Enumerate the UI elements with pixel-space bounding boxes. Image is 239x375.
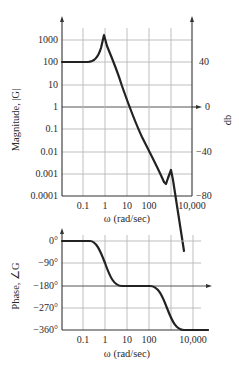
mag-tick-0.1: 0.1 xyxy=(46,123,59,134)
mag-tick-10: 10 xyxy=(48,79,58,90)
phase-tick-neg270: −270° xyxy=(33,302,58,313)
mag-xtick-1: 1 xyxy=(103,200,108,211)
phase-xtick-1: 1 xyxy=(103,334,108,345)
db-tick-40: 40 xyxy=(199,56,209,67)
magnitude-ylabel: Magnitude, |G| xyxy=(10,89,21,152)
magnitude-right-arrow-icon xyxy=(190,16,194,22)
mag-xtick-100: 100 xyxy=(142,200,157,211)
mag-xtick-10000: 10,000 xyxy=(178,200,206,211)
zero-db-arrow-icon xyxy=(196,105,202,109)
bode-plot: 1000 100 10 1 0.1 0.01 0.001 0.0001 40 0… xyxy=(0,0,239,375)
phase-xtick-0.1: 0.1 xyxy=(77,334,90,345)
db-tick-neg40: −40 xyxy=(196,146,212,157)
phase-arrow-icon xyxy=(206,284,212,288)
db-tick-0: 0 xyxy=(205,101,210,112)
phase-xtick-10: 10 xyxy=(122,334,132,345)
phase-tick-neg90: −90° xyxy=(38,257,58,268)
phase-plot: 0° −90° −180° −270° −360° 0.1 1 10 100 1… xyxy=(10,228,212,360)
mag-tick-100: 100 xyxy=(43,56,58,67)
mag-tick-1: 1 xyxy=(53,101,58,112)
mag-tick-0.0001: 0.0001 xyxy=(31,190,59,201)
mag-tick-0.01: 0.01 xyxy=(41,146,59,157)
phase-xtick-100: 100 xyxy=(142,334,157,345)
db-label: db xyxy=(222,115,233,126)
phase-xtick-10000: 10,000 xyxy=(179,334,207,345)
phase-grid xyxy=(62,235,201,330)
phase-ylabel: Phase, ∠G xyxy=(10,262,21,310)
magnitude-grid xyxy=(62,28,192,196)
phase-tick-neg180: −180° xyxy=(33,280,58,291)
mag-tick-0.001: 0.001 xyxy=(36,168,59,179)
mag-xtick-10: 10 xyxy=(122,200,132,211)
magnitude-plot: 1000 100 10 1 0.1 0.01 0.001 0.0001 40 0… xyxy=(10,16,233,251)
mag-tick-1000: 1000 xyxy=(38,34,58,45)
phase-tick-neg360: −360° xyxy=(33,324,58,335)
phase-tick-0: 0° xyxy=(49,235,58,246)
phase-xlabel: ω (rad/sec) xyxy=(104,348,151,360)
mag-xtick-0.1: 0.1 xyxy=(77,200,90,211)
magnitude-left-arrow-icon xyxy=(60,16,64,22)
phase-up-arrow-icon xyxy=(60,228,64,234)
magnitude-xlabel: ω (rad/sec) xyxy=(104,213,151,225)
